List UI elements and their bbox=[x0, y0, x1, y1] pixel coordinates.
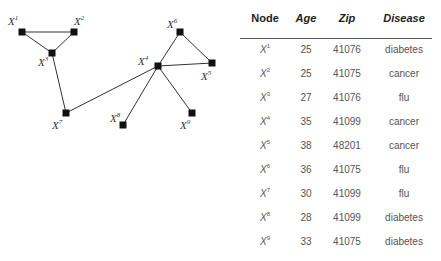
node-X2 bbox=[71, 29, 78, 36]
cell-disease: flu bbox=[374, 92, 434, 103]
cell-age: 36 bbox=[288, 164, 324, 175]
cell-node: X7 bbox=[240, 188, 290, 199]
cell-zip: 41075 bbox=[322, 68, 372, 79]
cell-node: X3 bbox=[240, 92, 290, 103]
node-label-X1: X1 bbox=[7, 14, 18, 27]
edge-X1-X3 bbox=[22, 32, 52, 53]
edge-X3-X7 bbox=[52, 53, 66, 113]
table-row: X53848201cancer bbox=[240, 140, 435, 156]
node-label-X2: X2 bbox=[73, 14, 85, 27]
cell-zip: 41099 bbox=[322, 188, 372, 199]
node-X4 bbox=[155, 63, 162, 70]
node-X5 bbox=[209, 60, 216, 67]
header-divider bbox=[240, 38, 432, 39]
node-X9 bbox=[189, 110, 196, 117]
node-X1 bbox=[19, 29, 26, 36]
cell-node: X6 bbox=[240, 164, 290, 175]
node-label-X8: X8 bbox=[109, 111, 121, 124]
cell-node: X8 bbox=[240, 212, 290, 223]
edge-X6-X5 bbox=[180, 32, 212, 63]
cell-age: 30 bbox=[288, 188, 324, 199]
node-X6 bbox=[177, 29, 184, 36]
cell-disease: cancer bbox=[374, 140, 434, 151]
cell-zip: 41076 bbox=[322, 92, 372, 103]
network-graph: X1X2X3X4X5X6X7X8X9 bbox=[0, 0, 235, 261]
table-row: X82841099diabetes bbox=[240, 212, 435, 228]
edge-X4-X6 bbox=[158, 32, 180, 66]
cell-zip: 41075 bbox=[322, 164, 372, 175]
attribute-table: Node Age Zip Disease X12541076diabetesX2… bbox=[240, 0, 435, 261]
node-X7 bbox=[63, 110, 70, 117]
cell-disease: cancer bbox=[374, 116, 434, 127]
cell-disease: flu bbox=[374, 188, 434, 199]
cell-zip: 41076 bbox=[322, 44, 372, 55]
cell-age: 28 bbox=[288, 212, 324, 223]
cell-zip: 48201 bbox=[322, 140, 372, 151]
table-row: X32741076flu bbox=[240, 92, 435, 108]
node-label-X7: X7 bbox=[51, 118, 63, 131]
header-disease: Disease bbox=[374, 12, 434, 24]
cell-node: X1 bbox=[240, 44, 290, 55]
header-zip: Zip bbox=[322, 12, 372, 24]
cell-age: 33 bbox=[288, 236, 324, 247]
edge-X4-X9 bbox=[158, 66, 192, 113]
table-row: X12541076diabetes bbox=[240, 44, 435, 60]
node-label-X3: X3 bbox=[37, 55, 49, 68]
table-row: X93341075diabetes bbox=[240, 236, 435, 252]
cell-age: 27 bbox=[288, 92, 324, 103]
cell-age: 25 bbox=[288, 68, 324, 79]
cell-age: 25 bbox=[288, 44, 324, 55]
edge-X4-X5 bbox=[158, 63, 212, 66]
header-age: Age bbox=[288, 12, 324, 24]
node-X8 bbox=[120, 122, 127, 129]
cell-disease: diabetes bbox=[374, 212, 434, 223]
cell-disease: flu bbox=[374, 164, 434, 175]
node-label-X6: X6 bbox=[166, 17, 178, 30]
table-row: X63641075flu bbox=[240, 164, 435, 180]
node-label-X4: X4 bbox=[137, 54, 149, 67]
table-row: X43541099cancer bbox=[240, 116, 435, 132]
cell-node: X5 bbox=[240, 140, 290, 151]
cell-age: 35 bbox=[288, 116, 324, 127]
cell-disease: cancer bbox=[374, 68, 434, 79]
cell-disease: diabetes bbox=[374, 44, 434, 55]
table-row: X22541075cancer bbox=[240, 68, 435, 84]
node-X3 bbox=[49, 50, 56, 57]
cell-zip: 41075 bbox=[322, 236, 372, 247]
cell-node: X2 bbox=[240, 68, 290, 79]
cell-age: 38 bbox=[288, 140, 324, 151]
cell-disease: diabetes bbox=[374, 236, 434, 247]
node-label-X9: X9 bbox=[179, 118, 191, 131]
cell-zip: 41099 bbox=[322, 212, 372, 223]
cell-zip: 41099 bbox=[322, 116, 372, 127]
cell-node: X4 bbox=[240, 116, 290, 127]
table-row: X73041099flu bbox=[240, 188, 435, 204]
cell-node: X9 bbox=[240, 236, 290, 247]
header-node: Node bbox=[240, 12, 290, 24]
node-label-X5: X5 bbox=[200, 69, 212, 82]
